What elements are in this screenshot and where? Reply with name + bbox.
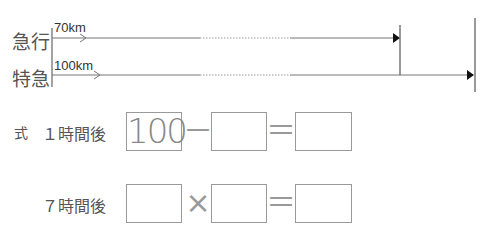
answer-box-2-3[interactable]: [295, 184, 352, 223]
distance-diagram: [0, 0, 495, 100]
minus-operator: －: [183, 112, 213, 150]
answer-box-1-3[interactable]: [295, 112, 352, 151]
train-label-express: 急行: [12, 27, 50, 54]
distance-label-express: 70km: [54, 20, 86, 35]
multiply-operator: ×: [183, 184, 213, 222]
equals-operator: ＝: [266, 112, 296, 150]
answer-box-value: 100: [127, 113, 181, 150]
arrow-head-top: [393, 33, 400, 43]
answer-box-1-1[interactable]: 100: [126, 112, 182, 151]
answer-box-1-2[interactable]: [211, 112, 267, 151]
formula-row-label-2: ７時間後: [42, 193, 106, 217]
answer-box-2-1[interactable]: [126, 184, 182, 223]
arrow-head-bottom: [467, 70, 474, 80]
formula-row-label-1: １時間後: [42, 121, 106, 145]
distance-label-limited-express: 100km: [54, 58, 93, 73]
answer-box-2-2[interactable]: [211, 184, 267, 223]
train-label-limited-express: 特急: [12, 64, 50, 91]
equals-operator: ＝: [266, 184, 296, 222]
formula-prefix: 式: [14, 122, 28, 142]
